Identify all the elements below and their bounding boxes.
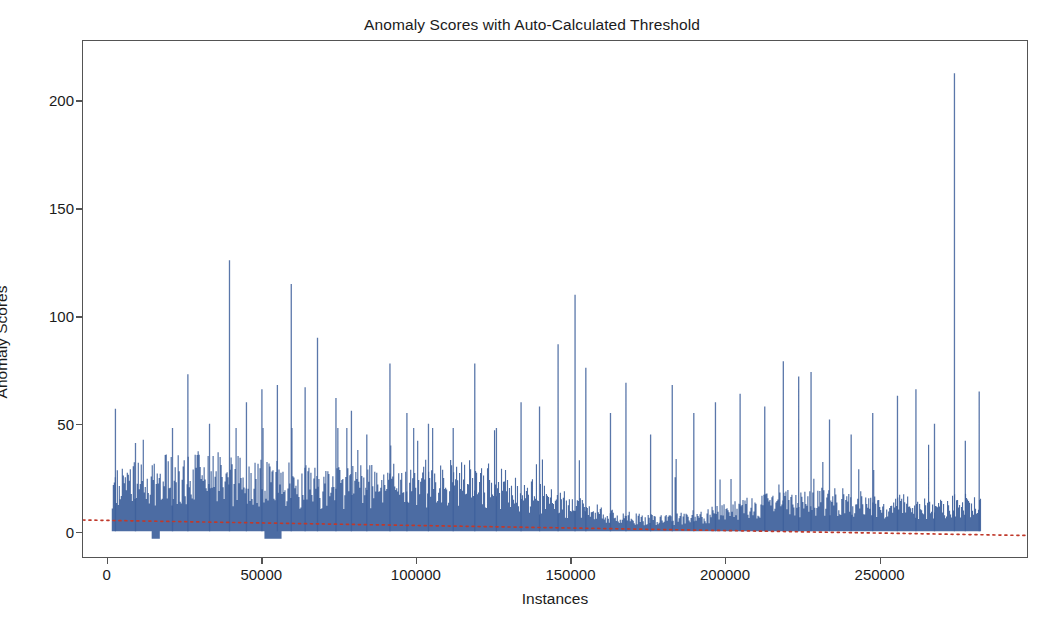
y-tick-label: 50 (14, 416, 74, 433)
x-tick-mark (416, 558, 417, 564)
x-tick-labels: 050000100000150000200000250000 (82, 566, 1028, 592)
plot-area (82, 40, 1028, 558)
x-tick-label: 100000 (356, 566, 476, 583)
x-axis-label: Instances (82, 590, 1028, 608)
x-tick-mark (261, 558, 262, 564)
anomaly-peak-spikes (115, 73, 979, 531)
x-tick-label: 150000 (510, 566, 630, 583)
y-tick-label: 200 (14, 92, 74, 109)
x-tick-mark (880, 558, 881, 564)
y-tick-label: 150 (14, 200, 74, 217)
x-tick-label: 250000 (820, 566, 940, 583)
y-tick-label: 0 (14, 524, 74, 541)
y-tick-labels: 050100150200 (8, 40, 74, 558)
y-tick-label: 100 (14, 308, 74, 325)
x-tick-label: 50000 (201, 566, 321, 583)
x-tick-label: 200000 (665, 566, 785, 583)
x-tick-marks (82, 558, 1028, 564)
chart-page: Anomaly Scores with Auto-Calculated Thre… (0, 0, 1064, 632)
x-tick-mark (725, 558, 726, 564)
anomaly-noise-band (112, 428, 980, 539)
series-anomaly-scores (112, 73, 980, 538)
plot-svg (83, 41, 1027, 557)
x-tick-mark (570, 558, 571, 564)
x-tick-label: 0 (47, 566, 167, 583)
anomaly-scores-chart: Anomaly Scores with Auto-Calculated Thre… (0, 0, 1064, 632)
chart-title: Anomaly Scores with Auto-Calculated Thre… (0, 16, 1064, 34)
x-tick-mark (107, 558, 108, 564)
